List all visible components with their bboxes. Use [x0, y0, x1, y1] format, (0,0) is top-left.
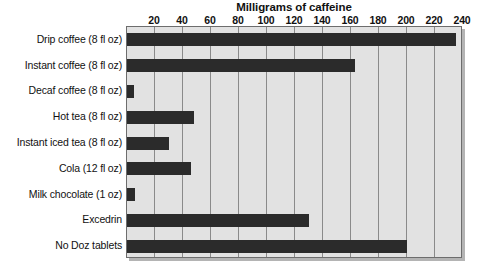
plot-area: [126, 26, 462, 258]
x-tick-label: 240: [454, 14, 471, 26]
bar: [127, 85, 134, 98]
bar: [127, 188, 135, 201]
chart-title: Milligrams of caffeine: [126, 1, 462, 13]
y-axis-category-labels: Drip coffee (8 fl oz)Instant coffee (8 f…: [0, 26, 122, 258]
bar-row: [127, 240, 461, 253]
bar: [127, 33, 456, 46]
bar: [127, 59, 355, 72]
bar: [127, 240, 407, 253]
bar-row: [127, 59, 461, 72]
x-tick-label: 40: [176, 14, 187, 26]
caffeine-bar-chart: Milligrams of caffeine 20406080100120140…: [0, 0, 480, 273]
bar-row: [127, 188, 461, 201]
bar-row: [127, 137, 461, 150]
x-tick-label: 60: [204, 14, 215, 26]
bar-row: [127, 85, 461, 98]
y-tick-label: Milk chocolate (1 oz): [0, 188, 122, 200]
bar-row: [127, 111, 461, 124]
x-tick-label: 180: [370, 14, 387, 26]
y-tick-label: Drip coffee (8 fl oz): [0, 33, 122, 45]
x-tick-label: 160: [342, 14, 359, 26]
y-tick-label: Excedrin: [0, 213, 122, 225]
y-tick-label: Instant iced tea (8 fl oz): [0, 136, 122, 148]
y-tick-label: Cola (12 fl oz): [0, 162, 122, 174]
x-tick-label: 220: [426, 14, 443, 26]
bar: [127, 137, 169, 150]
x-tick-label: 80: [232, 14, 243, 26]
x-tick-label: 100: [258, 14, 275, 26]
y-tick-label: No Doz tablets: [0, 239, 122, 251]
x-tick-label: 140: [314, 14, 331, 26]
bar-row: [127, 214, 461, 227]
bar-row: [127, 162, 461, 175]
x-tick-label: 200: [398, 14, 415, 26]
bar: [127, 162, 191, 175]
y-tick-label: Instant coffee (8 fl oz): [0, 59, 122, 71]
y-tick-label: Decaf coffee (8 fl oz): [0, 84, 122, 96]
bar: [127, 214, 309, 227]
x-tick-label: 120: [286, 14, 303, 26]
bar-row: [127, 33, 461, 46]
x-tick-label: 20: [148, 14, 159, 26]
bar: [127, 111, 194, 124]
y-tick-label: Hot tea (8 fl oz): [0, 110, 122, 122]
